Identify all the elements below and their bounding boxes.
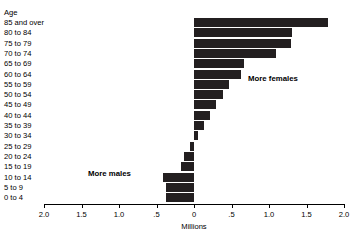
y-axis-title: Age [4,8,18,17]
bar [184,152,194,161]
x-axis-tick [82,204,83,208]
x-axis-tick-label: 1.5 [301,210,312,219]
bar [194,18,328,27]
x-axis-tick-label: .5 [228,210,234,219]
x-axis-tick [44,204,45,208]
bar [166,183,194,192]
bar [194,59,244,68]
bar [190,142,194,151]
population-difference-bar-chart: Age 85 and over80 to 8475 to 7970 to 746… [0,0,359,245]
bar [166,193,195,202]
x-axis-title: Millions [181,222,206,231]
x-axis-tick-label: 0 [192,210,196,219]
x-axis-tick [157,204,158,208]
x-axis-tick-label: .5 [153,210,159,219]
bar [194,121,204,130]
x-axis-tick [119,204,120,208]
x-axis-tick-label: 2.0 [39,210,50,219]
annotation-more-males: More males [88,169,131,178]
bar [194,131,198,140]
bar [194,80,229,89]
x-axis-tick-label: 1.0 [114,210,125,219]
x-axis-tick-label: 2.0 [339,210,350,219]
x-axis-tick [269,204,270,208]
annotation-more-females: More females [248,74,298,83]
bar [194,49,276,58]
x-axis-tick [232,204,233,208]
bar [194,70,241,79]
bar [194,100,216,109]
x-axis-tick-label: 1.0 [264,210,275,219]
x-axis-tick-label: 1.5 [76,210,87,219]
bar [194,28,292,37]
bar [194,39,291,48]
bar [194,90,223,99]
bar [194,111,210,120]
x-axis-tick [344,204,345,208]
x-axis-tick [194,204,195,208]
bar [181,162,194,171]
bar [163,173,194,182]
x-axis-tick [307,204,308,208]
